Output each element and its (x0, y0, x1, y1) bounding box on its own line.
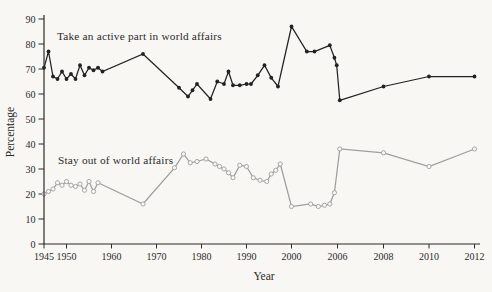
stay-out-point-1957 (96, 181, 100, 185)
active-part-point-1951 (69, 72, 73, 76)
active-part-point-1953 (78, 63, 82, 67)
active-part-point-1979 (195, 82, 199, 86)
y-tick-label-70: 70 (26, 64, 36, 75)
y-tick-label-0: 0 (31, 239, 36, 250)
stay-out-point-2005 (328, 202, 332, 206)
x-tick-label-2000: 2000 (282, 251, 302, 262)
active-part-point-1948 (56, 77, 60, 81)
active-part-point-1997 (276, 85, 280, 89)
active-part-point-2006.1 (338, 98, 342, 102)
active-part-point-1977 (186, 95, 190, 99)
x-tick-label-1945: 1945 (34, 251, 54, 262)
active-part-point-2005 (328, 43, 332, 47)
active-part-point-1987 (231, 83, 235, 87)
active-part-point-1990 (245, 82, 249, 86)
y-tick-label-40: 40 (26, 139, 36, 150)
stay-out-point-1954 (82, 188, 86, 192)
active-part-point-1991 (249, 82, 253, 86)
x-tick-label-1980: 1980 (192, 251, 212, 262)
active-part-point-2000 (290, 25, 294, 29)
active-part-point-1967 (141, 52, 145, 56)
active-part-point-1982 (209, 97, 213, 101)
stay-out-point-1987 (231, 176, 235, 180)
x-tick-label-1990: 1990 (237, 251, 257, 262)
stay-out-point-1991.5 (251, 176, 255, 180)
stay-out-point-1948 (55, 181, 59, 185)
stay-out-point-1947 (51, 187, 55, 191)
active-part-point-1986 (227, 70, 231, 74)
stay-out-point-1995.5 (269, 172, 273, 176)
stay-out-point-1951 (69, 183, 73, 187)
x-tick-label-1950: 1950 (57, 251, 77, 262)
stay-out-point-2010 (427, 164, 431, 168)
active-part-point-1956 (92, 68, 96, 72)
stay-out-point-1984 (217, 164, 221, 168)
stay-out-point-1949 (60, 183, 64, 187)
stay-out-point-1974 (172, 166, 176, 170)
active-part-point-2002 (305, 50, 309, 54)
stay-out-point-2005.6 (332, 191, 336, 195)
stay-out-point-2006.1 (338, 147, 342, 151)
stay-out-point-2004.3 (322, 203, 326, 207)
stay-out-point-1997.5 (278, 162, 282, 166)
stay-out-point-1990 (244, 164, 248, 168)
stay-out-point-1955 (87, 179, 91, 183)
stay-out-point-1996.5 (274, 168, 278, 172)
stay-out-point-1946 (46, 189, 50, 193)
active-part-point-1975 (177, 86, 181, 90)
x-tick-label-2012: 2012 (465, 251, 485, 262)
stay-out-point-1983 (213, 162, 217, 166)
stay-out-point-1950 (64, 179, 68, 183)
stay-out-point-2008 (381, 151, 385, 155)
active-part-point-1983.5 (215, 80, 219, 84)
stay-out-point-1988.5 (238, 163, 242, 167)
x-tick-label-2006: 2006 (328, 251, 348, 262)
active-part-point-1950 (65, 77, 69, 81)
active-part-point-1952 (74, 77, 78, 81)
x-tick-label-2008: 2008 (374, 251, 394, 262)
stay-out-point-1979 (195, 159, 199, 163)
stay-out-point-1977.5 (188, 161, 192, 165)
stay-out-point-2000 (289, 204, 293, 208)
active-part-point-2003 (313, 50, 317, 54)
y-tick-label-20: 20 (26, 189, 36, 200)
y-tick-label-90: 90 (26, 14, 36, 25)
stay-out-point-2012 (472, 147, 476, 151)
x-tick-label-1960: 1960 (102, 251, 122, 262)
x-tick-label-1970: 1970 (147, 251, 167, 262)
active-part-point-2005.6 (333, 56, 337, 60)
active-part-point-2010 (427, 75, 431, 79)
stay-out-point-1967 (141, 202, 145, 206)
stay-out-point-1986 (226, 171, 230, 175)
y-tick-label-60: 60 (26, 89, 36, 100)
active-part-point-1978 (191, 88, 195, 92)
active-part-point-1946 (47, 50, 51, 54)
active-part-point-1985 (222, 82, 226, 86)
y-tick-label-30: 30 (26, 164, 36, 175)
stay-out-point-2002.5 (309, 202, 313, 206)
y-axis-title: Percentage (4, 107, 17, 157)
active-part-point-1995.5 (269, 76, 273, 80)
active-part-point-1955 (87, 66, 91, 70)
stay-out-point-1952 (73, 184, 77, 188)
stay-out-point-1976 (181, 152, 185, 156)
y-tick-label-80: 80 (26, 39, 36, 50)
y-tick-label-50: 50 (26, 114, 36, 125)
x-tick-label-2010: 2010 (419, 251, 439, 262)
active-part-point-1957 (96, 66, 100, 70)
active-part-point-1958 (101, 70, 105, 74)
active-part-point-2012 (473, 75, 477, 79)
stay-out-point-1981 (204, 157, 208, 161)
active-part-point-2008 (382, 85, 386, 89)
stay-out-point-1953 (78, 182, 82, 186)
stay-out-point-1956 (91, 189, 95, 193)
line-chart-figure: 0102030405060708090194519501960197019801… (0, 0, 492, 292)
stay-out-point-1993 (258, 178, 262, 182)
chart-canvas: 0102030405060708090194519501960197019801… (0, 0, 492, 292)
annotation-stay-out: Stay out of world affairs (58, 154, 173, 166)
active-part-point-1992.5 (256, 73, 260, 77)
active-part-point-1954 (83, 73, 87, 77)
active-part-point-1947 (51, 75, 55, 79)
active-part-point-1994 (263, 63, 267, 67)
active-part-point-2005.9 (335, 63, 339, 67)
